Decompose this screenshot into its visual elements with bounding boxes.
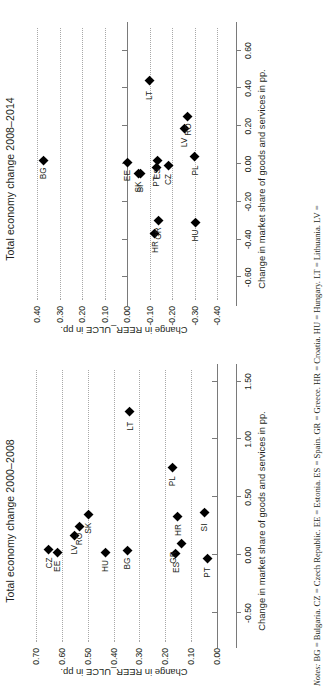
x-tick-mark-outer [236,612,241,613]
y-gridline [114,370,115,642]
x-tick-label: -0.20 [243,192,253,212]
y-gridline [195,28,196,300]
data-point-label: BG [122,558,132,570]
data-point-label: LV [179,138,189,148]
data-point-marker [125,407,135,417]
chart-panel-2000-2008: Total economy change 2000–2008 0.000.100… [0,354,288,688]
data-point-marker [190,152,200,162]
y-gridline [88,370,89,642]
data-point-label: SK [83,523,93,534]
data-point-marker [83,510,93,520]
x-tick-mark [122,201,127,202]
plot-area-2008-2014: -0.40-0.30-0.20-0.100.000.100.200.300.40… [26,28,222,300]
x-tick-mark [212,554,217,555]
y-gridline [150,28,151,300]
data-point-marker [52,548,62,558]
notes-label: Notes: [312,664,322,686]
data-point-marker [183,112,193,122]
x-axis-line [217,364,218,648]
data-point-marker [145,76,155,86]
chart-title-2000-2008: Total economy change 2000–2008 [4,354,16,688]
figure-notes: Notes: BG = Bulgaria. CZ = Czech Republi… [312,10,322,686]
x-tick-mark [122,87,127,88]
x-tick-label: -0.50 [243,603,253,623]
x-tick-mark-outer [236,496,241,497]
data-point-marker [122,157,132,167]
x-axis-title-2008-2014: Change in market share of goods and serv… [256,12,267,346]
data-point-label: HR [150,241,160,253]
data-point-label: RO [183,123,193,135]
data-point-marker [153,216,163,226]
data-point-label: PL [167,476,177,486]
x-tick-label: 0.60 [243,42,253,59]
data-point-marker [38,155,48,165]
plot-area-2000-2008: 0.000.100.200.300.400.500.600.70-0.500.0… [26,370,222,642]
y-gridline [36,370,37,642]
y-axis-title-2000-2008: Change in REER_ULCE in pp. [26,667,222,678]
data-point-label: HR [173,524,183,536]
x-tick-mark [122,125,127,126]
data-point-label: SI [199,524,209,532]
y-gridline [165,370,166,642]
data-point-label: CZ [44,557,54,568]
x-tick-mark-outer [236,276,241,277]
data-point-label: HU [100,560,110,572]
x-tick-label: 1.00 [243,431,253,448]
data-point-label: PL [190,165,200,175]
data-point-marker [190,218,200,228]
x-tick-mark-outer [236,125,241,126]
x-tick-mark-outer [236,554,241,555]
data-point-label: GR [168,551,178,563]
data-point-label: ES [152,168,162,179]
x-tick-label: -0.60 [243,268,253,288]
data-point-label: BG [38,167,48,179]
data-point-label: GR [153,227,163,239]
data-point-marker [176,539,186,549]
data-point-marker [200,508,210,518]
x-tick-mark-outer [236,381,241,382]
figure: Total economy change 2000–2008 0.000.100… [0,0,326,696]
x-tick-label: 0.00 [243,547,253,564]
x-tick-label: 0.00 [243,156,253,173]
x-tick-mark [122,50,127,51]
data-point-label: LT [125,422,135,431]
y-axis-title-2008-2014: Change in REER_ULCE in pp. [26,325,222,336]
data-point-label: RO [74,533,84,545]
x-tick-label: 0.40 [243,80,253,97]
x-axis-spine [236,22,237,306]
x-tick-mark-outer [236,201,241,202]
y-gridline [60,28,61,300]
data-point-label: EE [122,170,132,181]
chart-title-2008-2014: Total economy change 2008–2014 [4,12,16,346]
data-point-label: CZ [163,174,173,185]
data-point-label: LT [144,91,154,100]
x-tick-mark [122,239,127,240]
data-point-label: LV [69,545,79,555]
chart-panel-2008-2014: Total economy change 2008–2014 -0.40-0.3… [0,12,288,346]
x-axis-title-2000-2008: Change in market share of goods and serv… [256,354,267,688]
x-tick-mark-outer [236,163,241,164]
x-axis-spine [236,364,237,648]
data-point-label: SI [135,185,145,193]
y-gridline [139,370,140,642]
data-point-marker [101,548,111,558]
y-gridline [191,370,192,642]
x-tick-label: 1.50 [243,373,253,390]
x-tick-mark-outer [236,438,241,439]
x-tick-label: 0.20 [243,118,253,135]
y-gridline [62,370,63,642]
x-tick-mark [122,276,127,277]
x-tick-mark [212,496,217,497]
data-point-marker [173,512,183,522]
x-tick-mark-outer [236,50,241,51]
data-point-marker [168,462,178,472]
x-tick-mark-outer [236,239,241,240]
data-point-marker [202,554,212,564]
x-tick-mark [212,438,217,439]
data-point-label: ES [171,562,181,573]
y-gridline [82,28,83,300]
x-tick-mark [212,612,217,613]
x-tick-mark-outer [236,87,241,88]
rotated-figure-wrapper: Total economy change 2000–2008 0.000.100… [0,0,326,696]
x-tick-label: 0.50 [243,489,253,506]
